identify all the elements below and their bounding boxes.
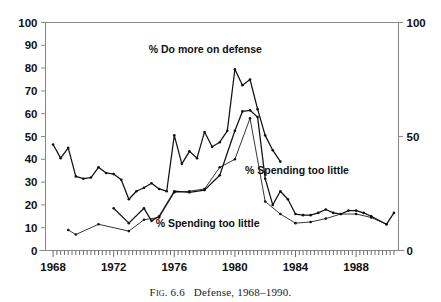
data-point [59, 157, 62, 160]
figure-number: Fig. 6.6 [150, 286, 185, 298]
y-tick-label-left: 100 [18, 17, 37, 29]
data-point [135, 190, 138, 193]
data-point [82, 177, 85, 180]
data-point [385, 223, 388, 226]
data-point [173, 191, 176, 194]
data-point [317, 212, 320, 215]
data-point [271, 149, 274, 152]
series-line-0 [53, 69, 280, 199]
data-point [128, 230, 131, 233]
y-tick-label-left: 70 [25, 85, 38, 97]
annotation-do-more: % Do more on defense [149, 43, 262, 55]
data-point [143, 218, 146, 221]
data-point [188, 190, 191, 193]
defense-opinion-line-chart: 0102030405060708090100050100196819721976… [0, 0, 441, 302]
data-point [234, 158, 237, 161]
y-tick-label-left: 90 [25, 39, 38, 51]
data-point [264, 177, 267, 180]
data-point [294, 213, 297, 216]
data-point [279, 213, 282, 216]
y-tick-label-right: 0 [407, 245, 413, 257]
data-point [249, 78, 252, 81]
data-point [128, 198, 131, 201]
data-point [75, 175, 78, 178]
data-point [234, 130, 237, 133]
data-point [347, 209, 350, 212]
data-point [324, 217, 327, 220]
x-tick-label: 1968 [40, 261, 66, 273]
data-point [370, 216, 373, 219]
data-point [67, 229, 70, 232]
data-point [279, 160, 282, 163]
data-point [143, 187, 146, 190]
data-point [279, 190, 282, 193]
data-point [256, 116, 259, 119]
y-tick-label-left: 30 [25, 176, 38, 188]
annotation-spending-right: % Spending too little [245, 164, 349, 176]
data-point [302, 214, 305, 217]
x-tick-label: 1972 [101, 261, 127, 273]
data-point [218, 174, 221, 177]
data-point [203, 131, 206, 134]
data-point [75, 233, 78, 236]
data-point [196, 157, 199, 160]
x-tick-label: 1984 [283, 261, 309, 273]
data-point [332, 212, 335, 215]
data-point [150, 182, 153, 185]
data-point [143, 207, 146, 210]
data-point [158, 188, 161, 191]
caption-text: Defense, 1968–1990. [194, 286, 292, 298]
data-point [309, 221, 312, 224]
data-point [309, 214, 312, 217]
caption-gap [185, 286, 194, 298]
y-tick-label-left: 60 [25, 108, 38, 120]
data-point [112, 173, 115, 176]
data-point [52, 143, 55, 146]
data-point [294, 222, 297, 225]
data-point [241, 110, 244, 113]
data-point [264, 134, 267, 137]
data-point [340, 213, 343, 216]
data-point [90, 176, 93, 179]
data-point [234, 68, 237, 71]
data-point [355, 213, 358, 216]
x-tick-label: 1988 [343, 261, 369, 273]
data-point [105, 172, 108, 175]
data-point [120, 179, 123, 182]
y-tick-label-left: 40 [25, 153, 38, 165]
y-tick-label-right: 100 [407, 17, 426, 29]
annotation-spending-bottom: % Spending too little [156, 217, 260, 229]
y-tick-label-left: 80 [25, 62, 38, 74]
data-point [165, 190, 168, 193]
x-tick-label: 1976 [161, 261, 187, 273]
data-point [150, 220, 153, 223]
data-point [249, 109, 252, 112]
data-point [203, 188, 206, 191]
data-point [355, 209, 358, 212]
data-point [287, 198, 290, 201]
y-tick-label-left: 20 [25, 199, 38, 211]
data-point [393, 212, 396, 215]
data-point [218, 141, 221, 144]
x-tick-label: 1980 [222, 261, 248, 273]
data-point [324, 208, 327, 211]
data-point [218, 166, 221, 169]
data-point [226, 130, 229, 133]
y-tick-label-left: 50 [25, 131, 38, 143]
data-point [271, 204, 274, 207]
data-point [256, 108, 259, 111]
data-point [188, 150, 191, 153]
data-point [67, 147, 70, 150]
data-point [362, 212, 365, 215]
data-point [264, 200, 267, 203]
y-tick-label-left: 10 [25, 222, 38, 234]
series-group [52, 68, 395, 236]
y-tick-label-left: 0 [31, 245, 37, 257]
data-point [241, 84, 244, 87]
data-point [181, 163, 184, 166]
figure-container: 0102030405060708090100050100196819721976… [0, 0, 441, 302]
data-point [211, 145, 214, 148]
data-point [97, 223, 100, 226]
y-tick-label-right: 50 [407, 131, 420, 143]
data-point [173, 134, 176, 137]
